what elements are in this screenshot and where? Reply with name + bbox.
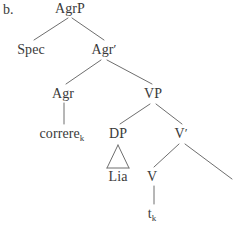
syntax-tree-figure: b. AgrP <box>0 0 237 225</box>
edge-vp-vbar <box>156 104 182 124</box>
node-v: V <box>147 170 157 184</box>
node-trace: tk <box>148 207 157 222</box>
subscript-k: k <box>152 213 157 223</box>
edge-agrbar-agr <box>66 60 101 84</box>
edge-agrbar-vp <box>107 60 152 84</box>
prime-mark: ′ <box>114 41 117 56</box>
prime-mark: ′ <box>185 125 188 140</box>
edge-vbar-right <box>185 144 232 179</box>
node-v-bar: V′ <box>174 127 187 141</box>
node-agr-bar-label: Agr <box>91 42 113 57</box>
node-agr-label: Agr <box>52 86 74 101</box>
node-lia: Lia <box>109 170 128 184</box>
node-correre: correrek <box>40 127 85 142</box>
edge-vbar-v <box>154 144 179 167</box>
node-vp-label: VP <box>144 86 162 101</box>
node-v-bar-label: V <box>174 126 184 141</box>
edge-agrp-spec <box>34 18 68 40</box>
node-agrp: AgrP <box>55 2 85 16</box>
node-vp: VP <box>144 87 162 101</box>
node-agr: Agr <box>52 87 74 101</box>
edge-vp-dp <box>120 104 150 124</box>
node-dp-label: DP <box>109 126 127 141</box>
node-spec-label: Spec <box>17 42 45 57</box>
tree-branch-lines <box>0 0 237 225</box>
node-v-label: V <box>147 169 157 184</box>
node-agrp-label: AgrP <box>55 1 85 16</box>
node-correre-label: correre <box>40 126 80 141</box>
edge-agrp-agrbar <box>72 18 104 40</box>
node-dp: DP <box>109 127 127 141</box>
node-agr-bar: Agr′ <box>91 43 116 57</box>
node-lia-label: Lia <box>109 169 128 184</box>
subscript-k: k <box>80 133 85 143</box>
edge-dp-triangle-left <box>107 145 118 168</box>
edge-dp-triangle-right <box>118 145 129 168</box>
figure-label: b. <box>3 3 14 17</box>
node-spec: Spec <box>17 43 45 57</box>
